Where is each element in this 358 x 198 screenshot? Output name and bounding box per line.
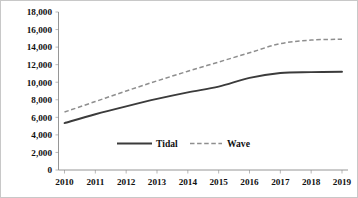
x-axis-tick-marks <box>65 170 343 174</box>
chart-canvas: 02,0004,0006,0008,00010,00012,00014,0001… <box>0 0 358 198</box>
x-tick-label: 2014 <box>179 177 198 187</box>
y-tick-label: 16,000 <box>27 25 53 35</box>
chart-legend: Tidal Wave <box>117 138 251 149</box>
x-tick-label: 2015 <box>209 177 228 187</box>
y-tick-label: 2,000 <box>31 148 52 158</box>
line-chart-figure: 02,0004,0006,0008,00010,00012,00014,0001… <box>0 0 358 198</box>
x-tick-label: 2011 <box>86 177 104 187</box>
y-tick-label: 12,000 <box>27 60 53 70</box>
x-tick-label: 2018 <box>302 177 321 187</box>
x-tick-label: 2016 <box>240 177 259 187</box>
series-line-wave <box>65 39 343 112</box>
y-tick-label: 10,000 <box>27 78 53 88</box>
legend-label-tidal: Tidal <box>156 138 178 149</box>
y-tick-label: 4,000 <box>31 130 52 140</box>
x-tick-label: 2012 <box>117 177 136 187</box>
x-tick-label: 2017 <box>271 177 290 187</box>
y-tick-label: 6,000 <box>31 113 52 123</box>
figure-border <box>1 1 358 198</box>
x-tick-label: 2019 <box>333 177 352 187</box>
y-tick-label: 14,000 <box>27 42 53 52</box>
x-axis-tick-labels: 2010201120122013201420152016201720182019 <box>55 177 351 187</box>
y-tick-label: 8,000 <box>31 95 52 105</box>
y-tick-label: 18,000 <box>27 7 53 17</box>
y-axis-tick-labels: 02,0004,0006,0008,00010,00012,00014,0001… <box>27 7 53 175</box>
x-tick-label: 2013 <box>148 177 167 187</box>
legend-label-wave: Wave <box>227 138 251 149</box>
x-tick-label: 2010 <box>55 177 74 187</box>
y-tick-label: 0 <box>47 165 52 175</box>
